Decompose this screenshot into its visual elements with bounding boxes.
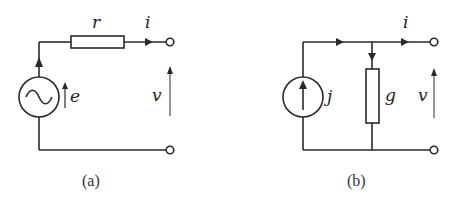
conductance-g bbox=[366, 69, 379, 123]
arrow-voltage-v-icon bbox=[167, 66, 173, 74]
label-e: e bbox=[70, 88, 80, 105]
figure-b-circuit bbox=[283, 38, 438, 154]
terminal-b-bottom bbox=[430, 146, 438, 154]
label-g: g bbox=[385, 87, 396, 104]
caption-b: (b) bbox=[347, 173, 366, 189]
arrow-voltage-v-b-icon bbox=[431, 68, 437, 76]
arrow-emf-e-icon bbox=[62, 82, 68, 89]
terminal-b-top bbox=[430, 38, 438, 46]
arrow-a-left-wire-icon bbox=[35, 57, 43, 67]
arrow-current-i-b-icon bbox=[401, 38, 409, 46]
resistor-r bbox=[71, 36, 124, 48]
circuit-diagrams bbox=[0, 0, 451, 201]
label-v-b: v bbox=[418, 87, 428, 104]
label-j: j bbox=[327, 88, 332, 105]
label-i-b: i bbox=[403, 14, 408, 31]
arrow-b-shunt-icon bbox=[368, 53, 376, 61]
label-i-a: i bbox=[145, 14, 150, 31]
arrow-b-top-icon bbox=[336, 38, 344, 46]
figure-a-circuit bbox=[19, 36, 174, 154]
label-v-a: v bbox=[152, 87, 162, 104]
arrow-current-i-icon bbox=[145, 38, 153, 46]
terminal-a-bottom bbox=[166, 146, 174, 154]
label-r: r bbox=[92, 14, 100, 31]
caption-a: (a) bbox=[82, 173, 100, 189]
terminal-a-top bbox=[166, 38, 174, 46]
